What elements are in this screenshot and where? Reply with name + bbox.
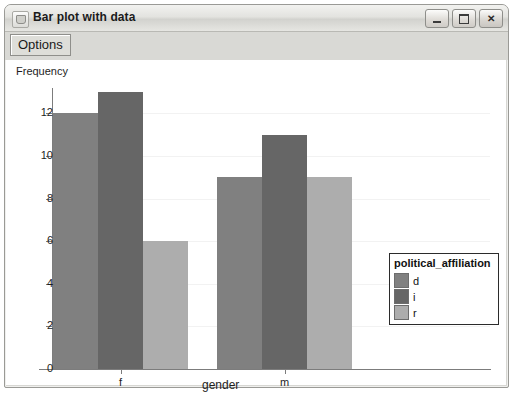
window-titlebar[interactable]: Bar plot with data ✕ <box>5 5 508 32</box>
y-axis-tick-label: 6 <box>29 234 53 246</box>
close-button[interactable]: ✕ <box>479 9 503 28</box>
legend-title: political_affiliation <box>394 257 491 269</box>
y-axis-tick-label-wrap: 12 <box>14 113 53 114</box>
bar-f-i <box>98 92 143 369</box>
y-axis-tick-label: 0 <box>29 362 53 374</box>
window-title: Bar plot with data <box>33 10 135 24</box>
y-axis-tick-label-wrap: 4 <box>14 284 53 285</box>
y-axis-tick-label: 10 <box>29 149 53 161</box>
legend-swatch-r <box>394 305 409 320</box>
x-axis-tick-label: m <box>280 376 289 388</box>
legend-item-i: i <box>394 289 415 304</box>
maximize-button[interactable] <box>452 9 476 28</box>
maximize-icon <box>453 10 475 27</box>
y-axis-tick-label-wrap: 2 <box>14 326 53 327</box>
x-axis-label: gender <box>202 378 239 392</box>
y-axis-tick-label-wrap: 10 <box>14 156 53 157</box>
x-axis-tick-label: f <box>119 376 122 388</box>
x-axis-tick <box>121 369 122 374</box>
legend-label-r: r <box>413 307 417 319</box>
minimize-icon <box>426 10 448 27</box>
application-window: Bar plot with data ✕ Options Frequency g… <box>4 4 509 388</box>
y-axis-label: Frequency <box>16 65 68 77</box>
y-axis-tick-label: 12 <box>29 106 53 118</box>
legend-item-r: r <box>394 305 417 320</box>
bar-m-i <box>262 135 307 369</box>
legend-swatch-d <box>394 273 409 288</box>
y-axis-tick-label-wrap: 6 <box>14 241 53 242</box>
minimize-button[interactable] <box>425 9 449 28</box>
bar-f-r <box>143 241 188 369</box>
screenshot-root: Bar plot with data ✕ Options Frequency g… <box>0 0 521 405</box>
bar-f-d <box>53 113 98 369</box>
app-icon <box>12 11 29 28</box>
toolbar: Options <box>5 32 508 60</box>
y-axis-tick-label-wrap: 0 <box>14 369 53 370</box>
window-controls: ✕ <box>425 9 503 28</box>
legend-swatch-i <box>394 289 409 304</box>
y-axis-tick-label-wrap: 8 <box>14 199 53 200</box>
y-axis-tick-label: 8 <box>29 192 53 204</box>
x-axis-tick <box>285 369 286 374</box>
bar-m-r <box>307 177 352 369</box>
bar-m-d <box>217 177 262 369</box>
y-axis-tick-label: 2 <box>29 319 53 331</box>
options-button[interactable]: Options <box>10 34 71 56</box>
close-icon: ✕ <box>480 10 502 27</box>
x-axis-line <box>39 369 491 370</box>
legend-label-d: d <box>413 275 419 287</box>
y-axis-tick-label: 4 <box>29 277 53 289</box>
legend-item-d: d <box>394 273 419 288</box>
chart-panel: Frequency gender 024681012 fm political_… <box>6 60 506 385</box>
legend: political_affiliation dir <box>389 253 499 325</box>
legend-label-i: i <box>413 291 415 303</box>
